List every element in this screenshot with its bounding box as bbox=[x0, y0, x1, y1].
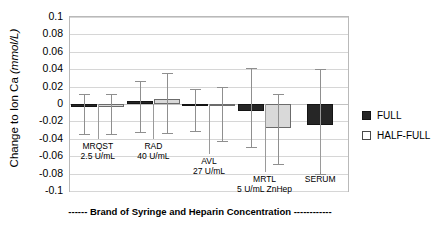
category-label: MRQST2.5 U/mL bbox=[81, 141, 116, 161]
y-axis-tick-label: 0.08 bbox=[43, 27, 63, 39]
x-axis-title: ------ Brand of Syringe and Heparin Conc… bbox=[40, 206, 360, 217]
bar-group: MRTL5 U/mL ZnHep bbox=[237, 17, 293, 191]
error-bar-cap-lower bbox=[106, 134, 117, 135]
category-tick bbox=[98, 104, 99, 139]
error-bar-cap-upper bbox=[162, 73, 173, 74]
legend-swatch-full-icon bbox=[362, 111, 371, 120]
y-axis-tick-label: 0 bbox=[57, 97, 63, 109]
category-label-concentration: 27 U/mL bbox=[193, 166, 225, 176]
y-axis-tick-label: 0.06 bbox=[43, 45, 63, 57]
category-label-name: SERUM bbox=[305, 174, 336, 184]
category-label: RAD40 U/mL bbox=[137, 141, 169, 161]
y-axis-title: Change to Ion Ca (mmol/L) bbox=[8, 10, 20, 186]
category-label-concentration: 2.5 U/mL bbox=[81, 151, 116, 161]
bar-group: SERUM bbox=[292, 17, 348, 191]
error-bar-stem bbox=[278, 94, 279, 164]
category-label-name: AVL bbox=[193, 156, 225, 166]
error-bar-cap-lower bbox=[273, 164, 284, 165]
category-tick bbox=[209, 104, 210, 154]
y-axis-tick-label: -0.02 bbox=[39, 114, 63, 126]
y-axis-tick-label: -0.04 bbox=[39, 132, 63, 144]
error-bar-cap-upper bbox=[106, 94, 117, 95]
y-axis-tick-label: -0.08 bbox=[39, 167, 63, 179]
error-bar-stem bbox=[167, 73, 168, 133]
error-bar-cap-lower bbox=[135, 132, 146, 133]
error-bar-stem bbox=[251, 68, 252, 146]
error-bar-cap-upper bbox=[79, 94, 90, 95]
error-bar-cap-upper bbox=[190, 89, 201, 90]
y-axis-tick-label: 0.02 bbox=[43, 80, 63, 92]
bar-group: AVL27 U/mL bbox=[181, 17, 237, 191]
plot-area: MRQST2.5 U/mLRAD40 U/mLAVL27 U/mLMRTL5 U… bbox=[69, 16, 349, 192]
error-bar-cap-upper bbox=[135, 81, 146, 82]
legend-swatch-half-full-icon bbox=[362, 131, 371, 140]
category-label: MRTL5 U/mL ZnHep bbox=[237, 174, 292, 194]
legend-label-full: FULL bbox=[377, 110, 401, 121]
error-bar-cap-lower bbox=[246, 147, 257, 148]
y-axis-tick-label: -0.06 bbox=[39, 149, 63, 161]
category-label-name: MRTL bbox=[237, 174, 292, 184]
error-bar-stem bbox=[84, 94, 85, 133]
y-axis-tick-label: 0.04 bbox=[43, 62, 63, 74]
category-label: AVL27 U/mL bbox=[193, 156, 225, 176]
error-bar-cap-lower bbox=[217, 141, 228, 142]
y-axis-title-main: Change to Ion Ca bbox=[8, 77, 20, 167]
error-bar-cap-upper bbox=[217, 87, 228, 88]
error-bar-cap-lower bbox=[162, 133, 173, 134]
chart-figure: Change to Ion Ca (mmol/L) 0.10.080.060.0… bbox=[0, 0, 443, 226]
error-bar-cap-upper bbox=[315, 69, 326, 70]
bar-group: MRQST2.5 U/mL bbox=[70, 17, 126, 191]
error-bar-cap-upper bbox=[273, 94, 284, 95]
y-axis-tick-label: 0.1 bbox=[48, 10, 63, 22]
legend-item-full[interactable]: FULL bbox=[362, 110, 442, 121]
category-label: SERUM bbox=[305, 174, 336, 184]
error-bar-cap-upper bbox=[246, 68, 257, 69]
error-bar-stem bbox=[111, 94, 112, 134]
category-label-name: MRQST bbox=[81, 141, 116, 151]
category-tick bbox=[153, 104, 154, 139]
error-bar-cap-lower bbox=[190, 131, 201, 132]
legend-item-half-full[interactable]: HALF-FULL bbox=[362, 130, 442, 141]
legend-label-half-full: HALF-FULL bbox=[377, 130, 430, 141]
y-axis-tick-labels: 0.10.080.060.040.020-0.02-0.04-0.06-0.08… bbox=[24, 0, 66, 200]
gridline bbox=[70, 191, 348, 192]
error-bar-cap-lower bbox=[79, 134, 90, 135]
chart-legend: FULL HALF-FULL bbox=[362, 110, 442, 150]
category-label-name: RAD bbox=[137, 141, 169, 151]
y-axis-title-container: Change to Ion Ca (mmol/L) bbox=[0, 0, 26, 200]
error-bar-stem bbox=[222, 87, 223, 142]
error-bar-stem bbox=[140, 81, 141, 131]
category-tick bbox=[265, 104, 266, 172]
category-label-concentration: 40 U/mL bbox=[137, 151, 169, 161]
bar-group: RAD40 U/mL bbox=[126, 17, 182, 191]
error-bar-stem bbox=[195, 89, 196, 131]
category-label-concentration: 5 U/mL ZnHep bbox=[237, 184, 292, 194]
category-tick bbox=[320, 104, 321, 172]
y-axis-tick-label: -0.1 bbox=[45, 184, 63, 196]
y-axis-title-units: (mmol/L) bbox=[8, 29, 20, 74]
